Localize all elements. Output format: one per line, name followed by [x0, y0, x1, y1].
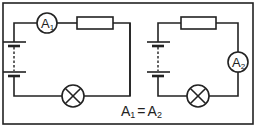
battery-symbol [147, 42, 170, 76]
svg-text:A2: A2 [232, 55, 246, 71]
wire [158, 23, 181, 42]
right-circuit: A2 [147, 17, 248, 107]
resistor-symbol [77, 17, 113, 29]
wire [216, 23, 238, 52]
resistor-symbol [181, 17, 216, 29]
circuit-diagram: A1 A2 [0, 0, 257, 128]
lamp-symbol [62, 85, 84, 107]
svg-text:A1: A1 [41, 16, 55, 32]
ammeter-a1: A1 [37, 13, 57, 33]
wire [209, 72, 238, 96]
caption-equation: A1=A2 [121, 103, 162, 120]
lamp-symbol [187, 85, 209, 107]
left-circuit: A1 [3, 13, 130, 107]
wire [14, 23, 37, 42]
battery-symbol [3, 42, 26, 76]
wire [14, 76, 62, 96]
wire [84, 23, 130, 96]
wire [158, 76, 187, 96]
ammeter-a2: A2 [228, 52, 248, 72]
